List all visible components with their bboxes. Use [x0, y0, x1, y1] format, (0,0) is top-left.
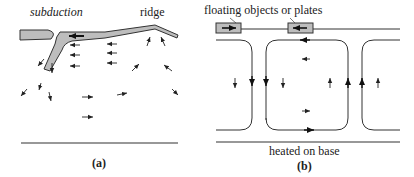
subducting-plate [44, 25, 178, 71]
mantle-flow-arrows [21, 37, 178, 117]
subduction-label: subduction [30, 5, 83, 19]
interior-flow-arrows [235, 59, 378, 111]
convection-cells [216, 40, 400, 130]
ridge-label: ridge [140, 5, 165, 19]
floating-objects-label: floating objects or plates [204, 3, 323, 17]
heated-on-base-label: heated on base [269, 144, 340, 158]
panel-b-diagram: floating objects or plates heated on bas… [200, 0, 414, 177]
panel-a-diagram: subduction ridge (a) [0, 0, 207, 177]
caption-a: (a) [92, 156, 106, 170]
overriding-plate [20, 30, 53, 40]
caption-b: (b) [297, 159, 312, 173]
